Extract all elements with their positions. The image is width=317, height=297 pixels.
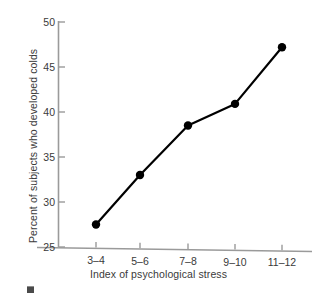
y-axis-title: Percent of subjects who developed colds xyxy=(27,49,39,243)
x-axis-title: Index of psychological stress xyxy=(0,268,317,280)
data-point: 9–10: 40.9 xyxy=(231,100,239,108)
data-point: 5–6: 33 xyxy=(136,171,144,179)
y-tick-label: 45 xyxy=(43,61,55,73)
page-artifact-mark xyxy=(27,286,34,293)
y-tick-label: 25 xyxy=(43,241,55,253)
y-tick-label: 30 xyxy=(43,196,55,208)
data-point: 3–4: 27.5 xyxy=(92,220,100,228)
y-tick-labels: 50 45 40 35 30 25 xyxy=(43,16,55,253)
x-tick-label: 5–6 xyxy=(131,255,149,267)
line-chart-plot: 50 45 40 35 30 25 3–4 5–6 7–8 9–10 11–12… xyxy=(0,0,317,297)
x-tick-label: 9–10 xyxy=(223,256,247,268)
x-tick-label: 3–4 xyxy=(87,254,105,266)
y-tick-label: 50 xyxy=(43,16,55,28)
y-tick-label: 35 xyxy=(43,151,55,163)
x-tick-label: 11–12 xyxy=(268,256,297,268)
data-point-markers: 3–4: 27.55–6: 337–8: 38.59–10: 40.911–12… xyxy=(92,43,286,229)
x-axis-line xyxy=(37,248,312,252)
x-tick-label: 7–8 xyxy=(179,255,197,267)
data-point: 11–12: 47.2 xyxy=(278,43,286,51)
y-axis-ticks xyxy=(59,22,66,247)
data-series-line xyxy=(96,47,282,224)
y-tick-label: 40 xyxy=(43,106,55,118)
data-point: 7–8: 38.5 xyxy=(184,121,192,129)
chart-figure: 50 45 40 35 30 25 3–4 5–6 7–8 9–10 11–12… xyxy=(0,0,317,297)
x-tick-labels: 3–4 5–6 7–8 9–10 11–12 xyxy=(87,254,296,268)
